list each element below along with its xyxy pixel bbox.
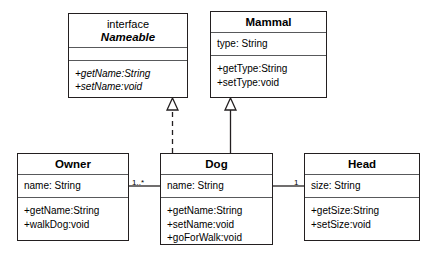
class-box-nameable[interactable]: interface Nameable +getName:String +setN… [68,13,188,98]
attribute-row: size: String [311,179,413,192]
method-row: +getName:String [24,204,122,217]
attributes-compartment-mammal: type: String [211,33,326,55]
attributes-compartment-owner: name: String [18,175,128,197]
class-header-owner: Owner [18,154,128,174]
method-row: +getType:String [217,62,320,75]
method-row: +setName:void [75,80,181,93]
attributes-compartment-nameable [69,48,187,60]
class-name-nameable: Nameable [73,31,183,44]
class-box-mammal[interactable]: Mammal type: String +getType:String +set… [210,11,327,98]
class-header-head: Head [305,154,419,174]
method-row: +setSize:void [311,218,413,231]
class-header-mammal: Mammal [211,12,326,32]
method-row: +getSize:String [311,204,413,217]
attribute-row: type: String [217,37,320,50]
attributes-compartment-head: size: String [305,175,419,197]
class-header-dog: Dog [161,154,272,174]
method-row: +getName:String [167,204,266,217]
class-header-nameable: interface Nameable [69,14,187,47]
methods-compartment-head: +getSize:String +setSize:void [305,198,419,236]
uml-class-diagram: interface Nameable +getName:String +setN… [0,0,437,259]
class-name-mammal: Mammal [215,16,322,29]
multiplicity-label-dog-head: 1 [294,178,298,187]
method-row: +getName:String [75,67,181,80]
class-name-owner: Owner [22,158,124,171]
method-row: +goForWalk:void [167,231,266,244]
stereotype-label-interface: interface [73,18,183,31]
multiplicity-label-owner-dog: 1..* [132,178,144,187]
class-name-dog: Dog [165,158,268,171]
methods-compartment-owner: +getName:String +walkDog:void [18,198,128,236]
method-row: +setType:void [217,76,320,89]
class-name-head: Head [309,158,415,171]
attribute-row: name: String [167,179,266,192]
attribute-row: name: String [24,179,122,192]
class-box-dog[interactable]: Dog name: String +getName:String +setNam… [160,153,273,245]
class-box-head[interactable]: Head size: String +getSize:String +setSi… [304,153,420,241]
method-row: +setName:void [167,218,266,231]
methods-compartment-mammal: +getType:String +setType:void [211,56,326,94]
hollow-triangle-arrowhead-nameable [167,98,178,110]
methods-compartment-dog: +getName:String +setName:void +goForWalk… [161,198,272,250]
class-box-owner[interactable]: Owner name: String +getName:String +walk… [17,153,129,241]
attributes-compartment-dog: name: String [161,175,272,197]
method-row: +walkDog:void [24,218,122,231]
hollow-triangle-arrowhead-mammal [225,98,236,110]
methods-compartment-nameable: +getName:String +setName:void [69,61,187,99]
